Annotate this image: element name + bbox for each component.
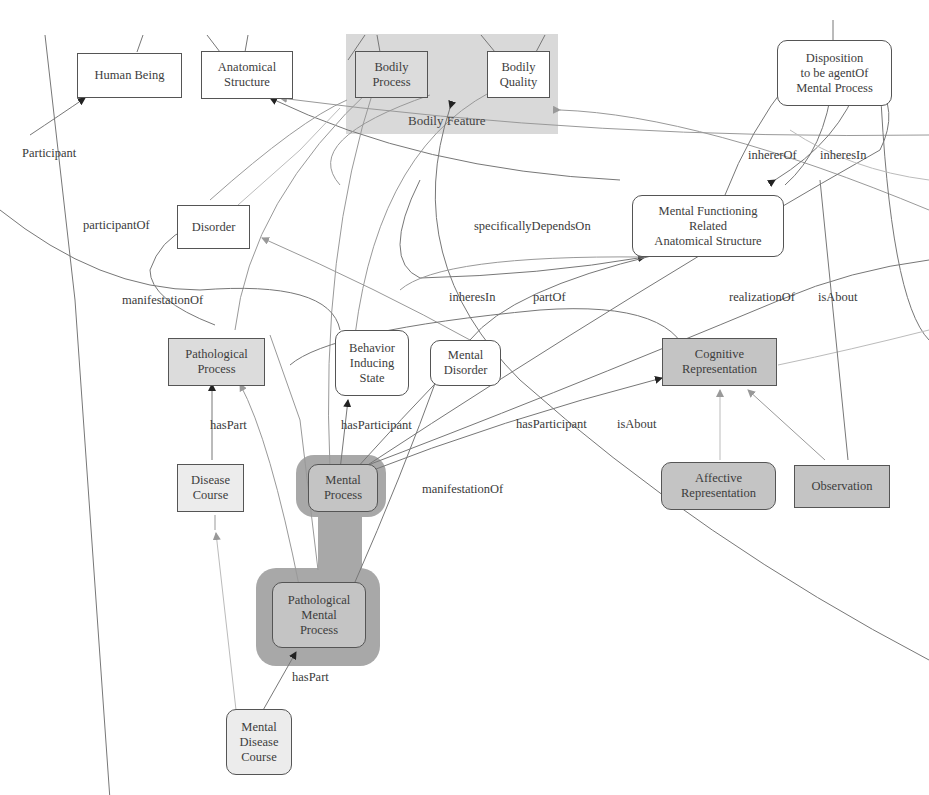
- node-disorder[interactable]: Disorder: [177, 205, 250, 249]
- node-human-being[interactable]: Human Being: [77, 53, 182, 98]
- edge-label-is-about: isAbout: [617, 417, 657, 432]
- node-bodily-process[interactable]: Bodily Process: [355, 51, 428, 98]
- node-mental-process[interactable]: Mental Process: [308, 464, 378, 512]
- edge-label-has-participant: hasParticipant: [341, 418, 412, 433]
- edge-label-has-part: hasPart: [210, 418, 247, 433]
- edge-label-manifestation-of: manifestationOf: [422, 482, 503, 497]
- node-affective-representation[interactable]: Affective Representation: [661, 462, 776, 510]
- node-mental-disorder[interactable]: Mental Disorder: [430, 340, 501, 386]
- node-cognitive-representation[interactable]: Cognitive Representation: [662, 338, 777, 386]
- node-observation[interactable]: Observation: [794, 465, 890, 508]
- edge-label-is-about: isAbout: [818, 290, 858, 305]
- edge-label-participant: Participant: [22, 146, 76, 161]
- node-pathological-process[interactable]: Pathological Process: [168, 338, 265, 386]
- node-mental-disease-course[interactable]: Mental Disease Course: [226, 709, 292, 775]
- edge-label-realization-of: realizationOf: [729, 290, 795, 305]
- node-pathological-mental-process[interactable]: Pathological Mental Process: [272, 582, 366, 648]
- bodily-feature-label: Bodily Feature: [408, 113, 486, 129]
- edge-label-inherer-of: inhererOf: [748, 148, 797, 163]
- edge-label-has-part: hasPart: [292, 670, 329, 685]
- node-disease-course[interactable]: Disease Course: [177, 464, 244, 512]
- edge-label-inheres-in: inheresIn: [820, 148, 867, 163]
- node-anatomical-structure[interactable]: Anatomical Structure: [201, 51, 293, 99]
- ontology-diagram: Bodily Feature Human Being Anatomical St…: [0, 0, 929, 795]
- node-mental-functioning-related-anatomical-structure[interactable]: Mental Functioning Related Anatomical St…: [632, 195, 784, 257]
- edge-label-part-of: partOf: [533, 290, 566, 305]
- node-disposition[interactable]: Disposition to be agentOf Mental Process: [777, 40, 892, 106]
- node-bodily-quality[interactable]: Bodily Quality: [487, 51, 550, 98]
- edge-label-inheres-in: inheresIn: [449, 290, 496, 305]
- edge-label-participant-of: participantOf: [83, 218, 150, 233]
- edge-label-specifically-depends-on: specificallyDependsOn: [474, 219, 591, 234]
- edge-label-has-participant: hasParticipant: [516, 417, 587, 432]
- node-behavior-inducing-state[interactable]: Behavior Inducing State: [335, 330, 409, 396]
- edge-label-manifestation-of: manifestationOf: [122, 293, 203, 308]
